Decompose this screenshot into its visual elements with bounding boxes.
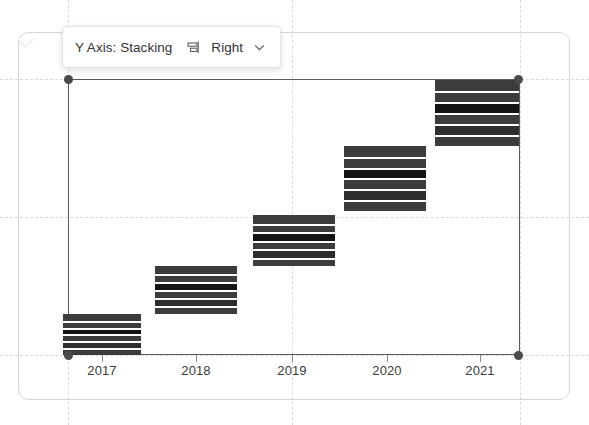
bar-segment xyxy=(63,314,141,321)
corner-marker-bottom-left xyxy=(64,351,73,360)
bar-2020[interactable] xyxy=(344,146,426,211)
corner-marker-top-left xyxy=(64,75,73,84)
xlabel-2019: 2019 xyxy=(257,363,327,378)
bar-segment xyxy=(253,224,335,233)
bar-2019[interactable] xyxy=(253,215,335,266)
bar-segment xyxy=(155,290,237,298)
bar-segment xyxy=(253,215,335,224)
bar-segment xyxy=(435,124,519,135)
bar-segment xyxy=(435,91,519,102)
bar-segment xyxy=(344,200,426,211)
bar-segment xyxy=(63,321,141,328)
bar-segment xyxy=(253,232,335,241)
bar-2018[interactable] xyxy=(155,266,237,314)
bar-segment xyxy=(435,113,519,124)
bar-segment xyxy=(253,258,335,267)
bar-segment xyxy=(155,282,237,290)
bar-segment xyxy=(344,178,426,189)
xtick-2020 xyxy=(387,355,388,362)
bar-segment xyxy=(344,189,426,200)
bar-segment xyxy=(63,334,141,341)
y-axis-stacking-value[interactable]: Right xyxy=(211,40,243,55)
bar-segment xyxy=(344,157,426,168)
bar-segment xyxy=(344,146,426,157)
chart-canvas: 2017 2018 2019 2020 2021 Y Axis: Stackin… xyxy=(0,0,589,425)
bar-segment xyxy=(435,80,519,91)
popover-tail xyxy=(18,39,34,49)
bar-segment xyxy=(253,241,335,250)
xtick-2021 xyxy=(480,355,481,362)
bar-segment xyxy=(155,274,237,282)
corner-marker-bottom-right xyxy=(514,351,523,360)
corner-marker-top-right xyxy=(514,75,523,84)
xlabel-2017: 2017 xyxy=(67,363,137,378)
xtick-2017 xyxy=(102,355,103,362)
bar-segment xyxy=(155,266,237,274)
bar-segment xyxy=(435,135,519,146)
bar-segment xyxy=(63,328,141,335)
bar-segment xyxy=(63,341,141,348)
bar-2021[interactable] xyxy=(435,80,519,146)
chevron-down-icon[interactable] xyxy=(253,41,266,54)
y-axis-stacking-label: Y Axis: Stacking xyxy=(75,40,172,55)
bar-segment xyxy=(344,168,426,179)
xlabel-2021: 2021 xyxy=(445,363,515,378)
y-axis-stacking-popover[interactable]: Y Axis: Stacking Right xyxy=(62,26,281,68)
bar-2017[interactable] xyxy=(63,314,141,355)
bar-segment xyxy=(155,298,237,306)
bar-align-right-icon xyxy=(186,40,201,55)
xtick-2018 xyxy=(196,355,197,362)
bar-segment xyxy=(63,348,141,355)
bar-segment xyxy=(155,306,237,314)
xtick-2019 xyxy=(292,355,293,362)
bar-segment xyxy=(253,249,335,258)
bar-segment xyxy=(435,102,519,113)
xlabel-2018: 2018 xyxy=(161,363,231,378)
xlabel-2020: 2020 xyxy=(352,363,422,378)
